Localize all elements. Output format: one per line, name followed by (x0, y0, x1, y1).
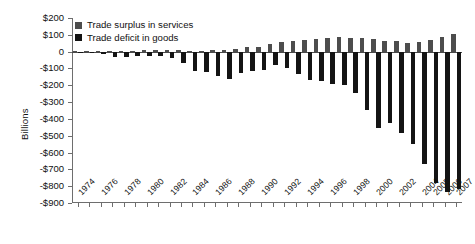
legend-label-services: Trade surplus in services (87, 19, 193, 32)
y-tick-label: -$500 (4, 130, 64, 141)
bar-services (371, 39, 376, 52)
x-tick (342, 203, 343, 207)
bar-goods (262, 52, 267, 71)
legend-swatch-services-icon (75, 22, 82, 29)
x-tick (250, 203, 251, 207)
y-tick-label: -$800 (4, 180, 64, 191)
legend: Trade surplus in services Trade deficit … (75, 19, 193, 44)
bar-services (279, 42, 284, 51)
bar-goods (365, 52, 370, 110)
bar-goods (457, 52, 462, 190)
bar-services (417, 42, 422, 52)
bar-goods (434, 52, 439, 184)
bar-goods (147, 52, 152, 56)
y-tick (68, 186, 72, 187)
bar-services (394, 41, 399, 51)
x-tick (101, 203, 102, 207)
bar-services (337, 37, 342, 52)
x-tick (296, 203, 297, 207)
x-tick (204, 203, 205, 207)
bar-services (451, 34, 456, 52)
x-tick (330, 203, 331, 207)
bar-goods (399, 52, 404, 133)
y-tick (68, 169, 72, 170)
bar-services (302, 40, 307, 51)
bar-services (405, 43, 410, 52)
bar-goods (285, 52, 290, 68)
y-tick-label: -$700 (4, 163, 64, 174)
bar-goods (239, 52, 244, 73)
legend-item-goods: Trade deficit in goods (75, 32, 193, 45)
bar-services (440, 37, 445, 51)
bar-goods (330, 52, 335, 84)
bar-services (233, 49, 238, 52)
bar-goods (250, 52, 255, 72)
bar-goods (78, 52, 83, 53)
y-tick (68, 102, 72, 103)
bar-services (199, 51, 204, 52)
bar-goods (353, 52, 358, 94)
y-tick (68, 119, 72, 120)
bar-goods (422, 52, 427, 164)
bar-goods (227, 52, 232, 79)
x-tick (307, 203, 308, 207)
bar-services (84, 51, 89, 52)
bar-goods (319, 52, 324, 81)
x-tick (365, 203, 366, 207)
y-tick-label: -$400 (4, 113, 64, 124)
y-tick (68, 52, 72, 53)
bar-goods (101, 52, 106, 55)
bar-services (96, 51, 101, 52)
legend-swatch-goods-icon (75, 34, 82, 41)
bar-goods (170, 52, 175, 58)
x-tick (422, 203, 423, 207)
bar-goods (113, 52, 118, 57)
y-tick (68, 136, 72, 137)
bar-goods (124, 52, 129, 58)
bar-goods (204, 52, 209, 73)
plot-area (72, 18, 462, 203)
x-tick (78, 203, 79, 207)
bar-goods (376, 52, 381, 128)
x-tick (158, 203, 159, 207)
bar-services (360, 38, 365, 52)
bar-services (325, 38, 330, 52)
bar-services (107, 51, 112, 52)
bar-services (119, 51, 124, 52)
x-tick (445, 203, 446, 207)
bar-services (314, 39, 319, 51)
x-tick (319, 203, 320, 207)
legend-item-services: Trade surplus in services (75, 19, 193, 32)
x-tick (456, 203, 457, 207)
y-tick-label: $200 (4, 12, 64, 23)
bar-goods (90, 52, 95, 54)
y-tick (68, 85, 72, 86)
bar-services (268, 44, 273, 51)
y-tick (68, 203, 72, 204)
legend-label-goods: Trade deficit in goods (87, 32, 178, 45)
bar-services (256, 47, 261, 52)
y-tick-label: $100 (4, 29, 64, 40)
y-tick-label: -$600 (4, 147, 64, 158)
x-tick (261, 203, 262, 207)
x-tick (192, 203, 193, 207)
bar-goods (273, 52, 278, 65)
bar-services (428, 40, 433, 52)
x-tick (376, 203, 377, 207)
x-tick (353, 203, 354, 207)
y-tick (68, 35, 72, 36)
bar-services (130, 51, 135, 52)
y-tick-label: 0 (4, 46, 64, 57)
bar-goods (445, 52, 450, 193)
y-tick (68, 18, 72, 19)
bar-goods (181, 52, 186, 63)
bar-services (382, 41, 387, 52)
y-tick-label: -$200 (4, 79, 64, 90)
bar-goods (296, 52, 301, 74)
bar-services (222, 50, 227, 52)
x-tick (215, 203, 216, 207)
x-tick (112, 203, 113, 207)
bar-services (291, 41, 296, 51)
x-tick (135, 203, 136, 207)
